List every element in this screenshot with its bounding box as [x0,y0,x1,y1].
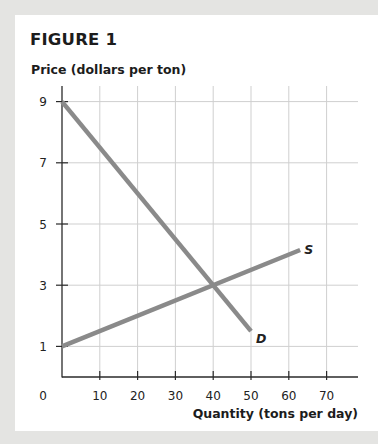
demand-label: D [256,331,266,346]
grid [62,86,358,377]
x-tick-label: 70 [319,389,334,403]
x-tick-label: 20 [130,389,145,403]
x-tick-label: 40 [206,389,221,403]
y-tick-label: 3 [39,279,47,293]
x-tick-label: 10 [92,389,107,403]
y-tick-label: 5 [39,218,47,232]
origin-label: 0 [39,389,47,403]
demand-curve [62,102,251,332]
y-tick-label: 9 [39,95,47,109]
x-tick-label: 30 [168,389,183,403]
tick-labels: 13579102030405060700 [39,95,334,403]
y-tick-label: 7 [39,156,47,170]
y-tick-label: 1 [39,340,47,354]
axes [56,86,358,380]
x-tick-label: 50 [243,389,258,403]
supply-demand-chart: 13579102030405060700 DS [0,0,378,444]
x-tick-label: 60 [281,389,296,403]
supply-label: S [304,242,313,257]
